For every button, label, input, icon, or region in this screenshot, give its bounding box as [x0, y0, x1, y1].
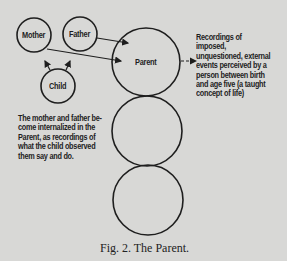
child-to-mother-arrow [45, 61, 50, 70]
internalization-annotation: The mother and father be- come internali… [18, 114, 102, 161]
bottom-circle [113, 165, 183, 235]
middle-circle [112, 96, 182, 166]
parent-label: Parent [135, 57, 156, 67]
father-label: Father [69, 29, 90, 39]
figure-caption: Fig. 2. The Parent. [100, 241, 189, 256]
child-to-father-arrow [66, 61, 70, 70]
father-to-parent-arrow [97, 38, 128, 43]
child-label: Child [49, 81, 66, 91]
recordings-annotation: Recordings of imposed, unquestioned, ext… [196, 33, 273, 99]
mother-label: Mother [22, 30, 45, 40]
